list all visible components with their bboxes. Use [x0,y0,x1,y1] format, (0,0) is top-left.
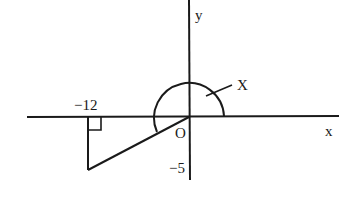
y-axis [189,0,190,180]
y-value-label: −5 [169,160,185,176]
angle-label: X [237,77,248,93]
right-angle-mark [88,117,101,130]
diagram-canvas: y x O −12 −5 X [0,0,351,199]
y-axis-label: y [195,7,203,23]
x-axis [27,116,339,117]
origin-label: O [175,125,186,141]
x-axis-label: x [325,123,333,139]
x-value-label: −12 [74,97,97,113]
